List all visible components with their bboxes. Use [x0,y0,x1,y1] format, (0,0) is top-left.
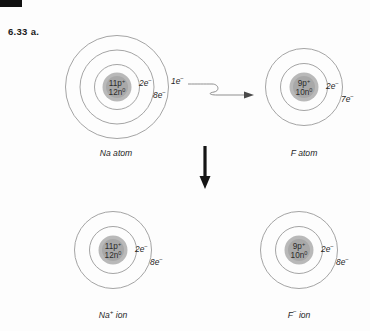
na-ion-caption: Na+ ion [65,310,161,320]
f-atom-caption: F atom [256,148,352,158]
na-atom-shell-1-label: 2e− [139,78,152,88]
f-ion-shell-2-label: 8e− [336,257,349,267]
problem-number-label: 6.33 a. [8,26,39,37]
f-ion-caption: F− ion [251,310,347,320]
reaction-down-arrow [198,146,212,190]
na-atom-diagram: 11p+ 12n0 [65,35,170,140]
na-atom-shell-2-label: 8e− [153,90,166,100]
na-atom-shell-3-label: 1e− [171,76,184,86]
f-atom-shell-1-label: 2e− [326,81,339,91]
na-ion-shell-1-label: 2e− [135,244,148,254]
diagram-page: 6.33 a. 11p+ 12n0 2e− 8e− 1e− Na atom [0,0,370,331]
na-ion-shell-2-label: 8e− [150,257,163,267]
f-atom-shell-2-label: 7e− [341,94,354,104]
f-ion-shell-1-label: 2e− [321,244,334,254]
page-corner-marker [0,0,22,7]
na-atom-caption: Na atom [68,148,164,158]
electron-transfer-arrow [186,76,258,102]
